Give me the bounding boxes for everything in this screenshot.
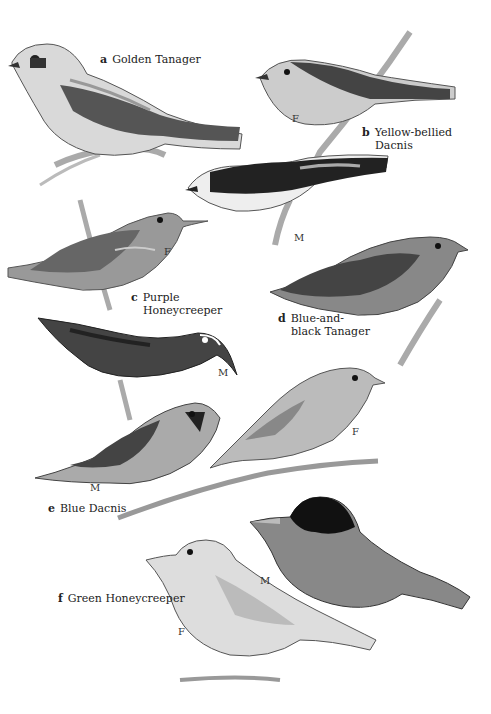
bird-illustrations (0, 0, 491, 714)
label-blue-dacnis: eBlue Dacnis (48, 502, 126, 515)
label-yellow-bellied-dacnis: bYellow-belliedDacnis (362, 126, 452, 152)
label-green-honeycreeper: fGreen Honeycreeper (58, 592, 185, 605)
sex-mark: F (292, 113, 299, 124)
label-purple-honeycreeper: cPurpleHoneycreeper (131, 291, 222, 317)
purple-honeycreeper-male-illustration (38, 318, 237, 420)
sex-mark: M (218, 367, 228, 378)
bird-illustration-plate: aGolden Tanager bYellow-belliedDacnis cP… (0, 0, 491, 714)
label-golden-tanager: aGolden Tanager (100, 53, 201, 66)
blue-and-black-tanager-illustration (270, 237, 468, 365)
sex-mark: F (164, 246, 171, 257)
sex-mark: M (260, 575, 270, 586)
label-blue-and-black-tanager: dBlue-and-black Tanager (278, 312, 370, 338)
sex-mark: F (352, 426, 359, 437)
blue-dacnis-female-illustration (210, 368, 385, 468)
sex-mark: M (90, 482, 100, 493)
yellow-bellied-dacnis-male-illustration (185, 155, 388, 245)
sex-mark: F (178, 626, 185, 637)
sex-mark: M (294, 232, 304, 243)
